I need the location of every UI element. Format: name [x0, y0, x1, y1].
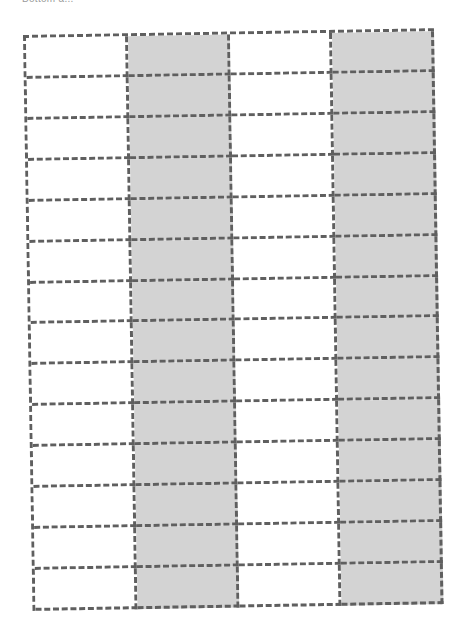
grid-cell-r9-c4 — [337, 359, 440, 402]
grid-cell-r6-c1 — [29, 241, 132, 284]
grid-cell-r1-c2 — [128, 35, 231, 78]
grid-cell-r10-c4 — [338, 399, 441, 442]
grid-cell-r11-c2 — [135, 444, 238, 487]
grid-cell-r3-c1 — [27, 118, 130, 161]
grid-cell-r8-c4 — [337, 318, 440, 361]
grid-cell-r9-c1 — [31, 364, 134, 407]
grid-cell-r6-c3 — [233, 237, 336, 280]
dashed-grid — [23, 28, 443, 611]
grid-cell-r2-c4 — [333, 72, 436, 115]
grid-cell-r3-c2 — [129, 116, 232, 159]
grid-cell-r1-c3 — [230, 33, 333, 76]
grid-cell-r4-c4 — [334, 154, 437, 197]
grid-cell-r14-c1 — [35, 568, 138, 611]
grid-cell-r3-c3 — [231, 115, 334, 158]
grid-cell-r13-c2 — [136, 526, 239, 569]
grid-cell-r12-c2 — [135, 485, 238, 528]
grid-cell-r8-c2 — [133, 321, 236, 364]
grid-cell-r9-c3 — [235, 360, 338, 403]
grid-cell-r12-c4 — [339, 481, 442, 524]
grid-cell-r7-c1 — [30, 282, 133, 325]
grid-cell-r11-c4 — [339, 440, 442, 483]
grid-cell-r7-c3 — [234, 278, 337, 321]
grid-cell-r5-c1 — [29, 200, 132, 243]
grid-cell-r3-c4 — [333, 113, 436, 156]
grid-cell-r13-c3 — [238, 524, 341, 567]
grid-cell-r11-c3 — [237, 442, 340, 485]
grid-cell-r13-c4 — [340, 522, 443, 565]
grid-cell-r8-c1 — [31, 323, 134, 366]
grid-cell-r6-c4 — [335, 236, 438, 279]
grid-cell-r11-c1 — [33, 445, 136, 488]
grid-cell-r5-c3 — [233, 197, 336, 240]
grid-cell-r13-c1 — [34, 527, 137, 570]
grid-cell-r7-c2 — [132, 280, 235, 323]
grid-cell-r1-c1 — [26, 36, 129, 79]
grid-cell-r4-c3 — [232, 156, 335, 199]
grid-cell-r7-c4 — [336, 277, 439, 320]
grid-cell-r2-c2 — [129, 75, 232, 118]
grid-cell-r14-c4 — [341, 563, 444, 606]
grid-cell-r14-c3 — [239, 565, 342, 608]
grid-cell-r10-c1 — [32, 405, 135, 448]
grid-cell-r2-c3 — [231, 74, 334, 117]
grid-cell-r12-c3 — [237, 483, 340, 526]
grid-cell-r10-c2 — [134, 403, 237, 446]
grid-cell-r5-c2 — [131, 198, 234, 241]
grid-cell-r6-c2 — [131, 239, 234, 282]
grid-cell-r8-c3 — [235, 319, 338, 362]
grid-cell-r9-c2 — [133, 362, 236, 405]
grid-cell-r10-c3 — [236, 401, 339, 444]
grid-cell-r14-c2 — [137, 567, 240, 610]
grid-cell-r1-c4 — [332, 31, 435, 74]
grid-cell-r4-c1 — [28, 159, 131, 202]
grid-cell-r2-c1 — [27, 77, 130, 120]
dashed-grid-container — [23, 28, 443, 611]
clipped-caption: Bottom a... — [22, 0, 74, 4]
grid-cell-r4-c2 — [130, 157, 233, 200]
grid-cell-r12-c1 — [34, 486, 137, 529]
grid-cell-r5-c4 — [335, 195, 438, 238]
